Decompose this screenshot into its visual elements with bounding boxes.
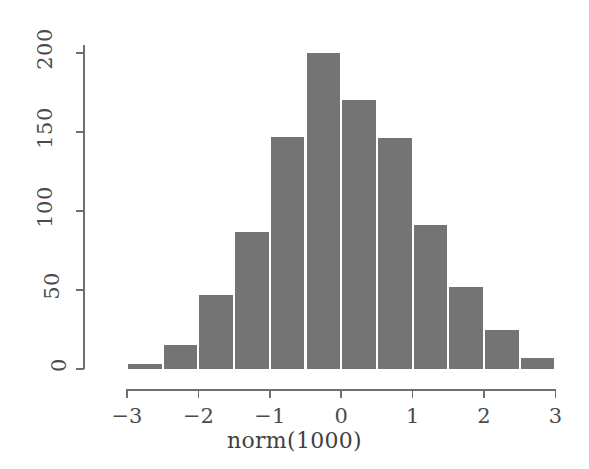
- histogram-bar: [163, 345, 199, 369]
- x-axis-tick: [126, 389, 128, 398]
- x-axis-tick-label: −1: [245, 404, 295, 428]
- histogram-plot: 050100150200 −3−2−10123 norm(1000): [0, 0, 589, 469]
- x-axis-tick-label: 1: [388, 404, 438, 428]
- histogram-bar: [270, 137, 306, 369]
- histogram-bar: [484, 330, 520, 370]
- histogram-bar: [306, 53, 342, 369]
- y-axis-tick-label: 100: [0, 195, 66, 219]
- x-axis-tick-label: −3: [102, 404, 152, 428]
- x-axis-tick: [483, 389, 485, 398]
- x-axis-tick: [198, 389, 200, 398]
- y-axis-tick-label: 200: [0, 37, 66, 61]
- x-axis-tick-label: −2: [173, 404, 223, 428]
- x-axis-tick: [269, 389, 271, 398]
- x-axis-tick: [555, 389, 557, 398]
- y-axis-tick: [76, 131, 84, 133]
- x-axis-tick-label: 3: [530, 404, 580, 428]
- histogram-bar: [198, 295, 234, 369]
- y-axis-tick: [76, 52, 84, 54]
- y-axis-tick-label: 150: [0, 116, 66, 140]
- x-axis-title: norm(1000): [0, 428, 589, 453]
- histogram-bar: [413, 225, 449, 369]
- histogram-bar: [234, 232, 270, 370]
- histogram-bar: [520, 358, 556, 369]
- y-axis-tick-label: 50: [0, 274, 66, 298]
- y-axis-tick-label: 0: [0, 353, 66, 377]
- x-axis-tick-label: 0: [316, 404, 366, 428]
- plot-area: [84, 45, 576, 369]
- y-axis-tick: [76, 210, 84, 212]
- histogram-bar: [448, 287, 484, 369]
- x-axis-tick-label: 2: [459, 404, 509, 428]
- histogram-bar: [341, 100, 377, 369]
- x-axis-tick: [412, 389, 414, 398]
- y-axis-tick: [76, 368, 84, 370]
- x-axis-tick: [340, 389, 342, 398]
- y-axis-line: [83, 45, 85, 369]
- histogram-bar: [127, 364, 163, 369]
- y-axis-tick: [76, 289, 84, 291]
- histogram-bar: [377, 138, 413, 369]
